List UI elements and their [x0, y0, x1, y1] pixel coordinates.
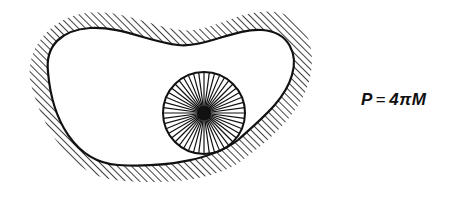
equation-lhs: P [361, 90, 373, 109]
equation-rhs: 4πM [389, 90, 426, 109]
hatched-wall [30, 12, 312, 183]
equation: P=4πM [361, 90, 427, 110]
radiating-sphere [163, 72, 245, 154]
equation-operator: = [373, 90, 389, 109]
